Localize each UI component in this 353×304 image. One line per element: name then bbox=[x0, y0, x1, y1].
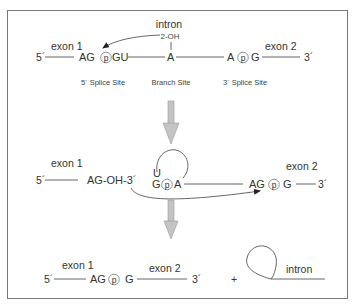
exon1-label: exon 1 bbox=[51, 157, 83, 169]
phosphate-label: p bbox=[104, 53, 109, 63]
free-end-label: AG-OH-3´ bbox=[87, 174, 137, 186]
three-prime-label: 3´ bbox=[192, 273, 201, 285]
five-prime-label: 5´ bbox=[36, 51, 45, 63]
caption-3-splice-site: 3´ Splice Site bbox=[223, 78, 267, 87]
splicing-diagram: intron 2-OH exon 1 5´ AG p GU A A p G ex… bbox=[0, 0, 353, 304]
exon1-label: exon 1 bbox=[51, 40, 83, 52]
seq-3ss-a: A bbox=[227, 51, 235, 63]
seq-3ss-g: G bbox=[283, 178, 292, 190]
phosphate-label: p bbox=[112, 275, 117, 285]
exon1-label: exon 1 bbox=[62, 259, 94, 271]
intron-label: intron bbox=[286, 263, 312, 275]
phosphate-label: p bbox=[165, 180, 170, 190]
five-prime-label: 5´ bbox=[44, 273, 53, 285]
five-prime-label: 5´ bbox=[36, 174, 45, 186]
seq-g: G bbox=[125, 273, 134, 285]
seq-ag: AG bbox=[90, 273, 106, 285]
seq-3ss-g: G bbox=[251, 51, 260, 63]
exon2-label: exon 2 bbox=[265, 40, 297, 52]
caption-branch-site: Branch Site bbox=[152, 78, 191, 87]
plus-sign: + bbox=[231, 273, 237, 285]
diagram-frame bbox=[8, 11, 348, 299]
intron-label: intron bbox=[156, 18, 182, 30]
oh-label: 2-OH bbox=[160, 32, 179, 41]
exon2-label: exon 2 bbox=[149, 262, 181, 274]
three-prime-label: 3´ bbox=[304, 51, 313, 63]
caption-5-splice-site: 5´ Splice Site bbox=[81, 78, 125, 87]
seq-5ss-gu: GU bbox=[112, 51, 129, 63]
seq-branch-a: A bbox=[167, 51, 175, 63]
lariat-g: G bbox=[152, 178, 161, 190]
seq-3ss-ag: AG bbox=[249, 178, 265, 190]
lariat-a: A bbox=[174, 178, 182, 190]
three-prime-label: 3´ bbox=[318, 178, 327, 190]
seq-5ss-ag: AG bbox=[79, 51, 95, 63]
exon2-label: exon 2 bbox=[286, 160, 318, 172]
phosphate-label: p bbox=[272, 180, 277, 190]
phosphate-label: p bbox=[241, 53, 246, 63]
